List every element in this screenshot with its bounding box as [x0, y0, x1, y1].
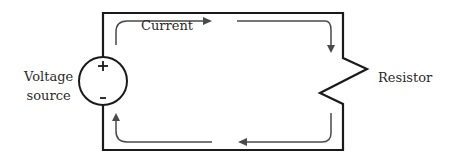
arrow-down-icon: [327, 45, 335, 53]
circuit-wire: [103, 13, 367, 150]
resistor-label: Resistor: [378, 70, 432, 85]
voltage-source-symbol: [79, 57, 127, 105]
voltage-source-label-line1: Voltage: [24, 67, 73, 86]
arrow-left-icon: [238, 138, 247, 146]
current-label: Current: [141, 18, 193, 33]
voltage-source-label-line2: source: [24, 86, 73, 105]
arrow-up-icon: [112, 113, 120, 121]
arrow-right-icon: [203, 17, 212, 25]
current-flow-arrows: [116, 21, 331, 142]
voltage-source-label: Voltage source: [24, 67, 73, 105]
